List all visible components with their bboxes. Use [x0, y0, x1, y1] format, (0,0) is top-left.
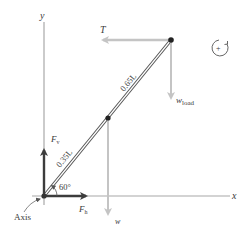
x-axis-label: x: [231, 190, 237, 201]
weight-label: w: [115, 217, 121, 226]
horizontal-force-label: Fh: [78, 204, 88, 215]
top-end-point: [168, 37, 174, 43]
lower-segment-label: 0.35L: [54, 147, 74, 169]
tension-label: T: [100, 24, 107, 35]
vertical-force-label: Fv: [50, 134, 60, 145]
center-of-mass-point: [105, 115, 110, 120]
pivot-axis-label: Axis: [14, 212, 32, 222]
rotation-direction-icon: +: [212, 40, 228, 56]
y-axis-label: y: [39, 10, 45, 21]
pivot-axis-pointer: Axis: [14, 199, 40, 222]
rotation-sign: +: [216, 44, 221, 53]
pivot-point: [41, 193, 46, 198]
angle-label: 60°: [59, 182, 71, 192]
free-body-diagram: y x 60° 0.35L 0.65L T wload w Fv Fh: [0, 0, 251, 233]
load-weight-label: wload: [176, 95, 195, 107]
